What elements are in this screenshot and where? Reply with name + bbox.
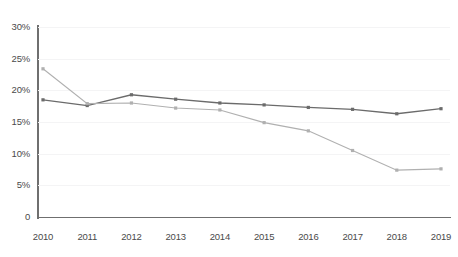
data-point-marker bbox=[263, 103, 266, 106]
y-axis-tick-label: 20% bbox=[0, 84, 30, 95]
x-axis-tick-label: 2019 bbox=[431, 231, 451, 242]
series-layer bbox=[38, 27, 450, 217]
data-point-marker bbox=[395, 169, 398, 172]
x-axis-labels: 2010201120122013201420152016201720182019 bbox=[38, 231, 450, 247]
y-axis-tick-label: 10% bbox=[0, 148, 30, 159]
y-axis-tick-label: 0 bbox=[0, 211, 30, 222]
x-axis-tick-label: 2016 bbox=[298, 231, 318, 242]
x-axis-tick-label: 2014 bbox=[210, 231, 230, 242]
data-point-marker bbox=[130, 101, 133, 104]
x-axis-tick-label: 2011 bbox=[77, 231, 97, 242]
y-axis-tick-label: 25% bbox=[0, 53, 30, 64]
data-point-marker bbox=[395, 112, 398, 115]
data-point-marker bbox=[86, 102, 89, 105]
series-line bbox=[43, 95, 441, 114]
x-axis-tick-label: 2018 bbox=[387, 231, 407, 242]
plot-area bbox=[38, 27, 450, 217]
series-2 bbox=[41, 67, 442, 172]
x-axis-tick-label: 2013 bbox=[165, 231, 185, 242]
x-axis-line bbox=[37, 217, 451, 218]
data-point-marker bbox=[351, 108, 354, 111]
x-axis-tick-label: 2017 bbox=[342, 231, 362, 242]
data-point-marker bbox=[41, 67, 44, 70]
data-point-marker bbox=[174, 98, 177, 101]
x-axis-tick-label: 2010 bbox=[33, 231, 53, 242]
y-axis-tick-label: 30% bbox=[0, 21, 30, 32]
data-point-marker bbox=[130, 93, 133, 96]
y-axis-tick-label: 15% bbox=[0, 116, 30, 127]
data-point-marker bbox=[307, 106, 310, 109]
data-point-marker bbox=[218, 108, 221, 111]
data-point-marker bbox=[174, 106, 177, 109]
data-point-marker bbox=[218, 101, 221, 104]
data-point-marker bbox=[351, 149, 354, 152]
y-axis-labels: 30%25%20%15%10%5%0 bbox=[0, 0, 34, 257]
chart-legend bbox=[276, 0, 458, 5]
x-axis-tick-label: 2012 bbox=[121, 231, 141, 242]
data-point-marker bbox=[263, 121, 266, 124]
series-1 bbox=[41, 93, 442, 115]
line-chart: 30%25%20%15%10%5%0 201020112012201320142… bbox=[0, 0, 458, 257]
series-line bbox=[43, 69, 441, 170]
x-axis-tick-label: 2015 bbox=[254, 231, 274, 242]
data-point-marker bbox=[41, 98, 44, 101]
data-point-marker bbox=[307, 129, 310, 132]
data-point-marker bbox=[439, 107, 442, 110]
data-point-marker bbox=[439, 167, 442, 170]
y-axis-tick-label: 5% bbox=[0, 179, 30, 190]
